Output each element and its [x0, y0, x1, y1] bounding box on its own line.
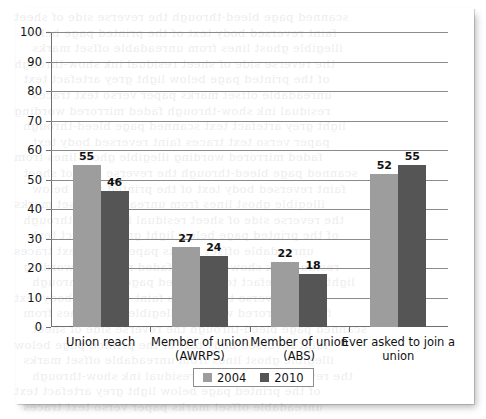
bar-2010-3 [299, 274, 327, 327]
y-axis-tick-label: 20 [27, 261, 42, 275]
bar-value-label: 55 [79, 150, 94, 163]
legend-label-2010: 2010 [274, 371, 303, 385]
bar-value-label: 55 [405, 150, 420, 163]
bar-value-label: 24 [206, 241, 221, 254]
plot-area: 01020304050607080901005546Union reach272… [51, 32, 448, 327]
bar-2004-1 [73, 165, 101, 327]
legend-entry-2004: 2004 [203, 371, 246, 385]
x-axis-tick [349, 327, 350, 332]
legend-swatch-2004 [203, 373, 212, 382]
y-axis-tick [46, 180, 51, 181]
bar-value-label: 52 [377, 159, 392, 172]
y-axis-tick [46, 150, 51, 151]
scanned-page: scanned page bleed-through the reverse s… [0, 0, 486, 419]
y-axis-tick-label: 60 [27, 143, 42, 157]
x-axis-category-label: Ever asked to join a union [338, 335, 458, 363]
bar-value-label: 46 [107, 176, 122, 189]
gridline [51, 62, 448, 63]
bar-2004-4 [370, 174, 398, 327]
bar-2010-1 [101, 191, 129, 327]
gridline [51, 91, 448, 92]
y-axis-tick-label: 100 [20, 25, 42, 39]
bar-2010-4 [398, 165, 426, 327]
y-axis-tick [46, 91, 51, 92]
y-axis-tick [46, 62, 51, 63]
y-axis-tick [46, 239, 51, 240]
y-axis-tick-label: 0 [35, 320, 42, 334]
y-axis-tick-label: 50 [27, 173, 42, 187]
y-axis-tick [46, 327, 51, 328]
gridline [51, 121, 448, 122]
y-axis-tick-label: 70 [27, 114, 42, 128]
bar-2004-2 [172, 247, 200, 327]
y-axis-tick-label: 40 [27, 202, 42, 216]
y-axis-tick-label: 90 [27, 55, 42, 69]
x-axis-tick [250, 327, 251, 332]
y-axis-tick [46, 32, 51, 33]
chart-legend: 2004 2010 [193, 368, 314, 387]
bar-2004-3 [271, 262, 299, 327]
legend-entry-2010: 2010 [260, 371, 303, 385]
legend-swatch-2010 [260, 373, 269, 382]
y-axis-tick-label: 30 [27, 232, 42, 246]
gridline [51, 32, 448, 33]
x-axis-tick [150, 327, 151, 332]
y-axis-tick [46, 121, 51, 122]
bar-value-label: 18 [305, 259, 320, 272]
bar-2010-2 [200, 256, 228, 327]
y-axis-tick-label: 80 [27, 84, 42, 98]
y-axis-tick [46, 298, 51, 299]
y-axis-tick [46, 209, 51, 210]
legend-label-2004: 2004 [217, 371, 246, 385]
y-axis-tick [46, 268, 51, 269]
bar-chart: 01020304050607080901005546Union reach272… [16, 8, 474, 404]
bar-value-label: 22 [277, 247, 292, 260]
gridline [51, 150, 448, 151]
bar-value-label: 27 [178, 232, 193, 245]
y-axis-tick-label: 10 [27, 291, 42, 305]
